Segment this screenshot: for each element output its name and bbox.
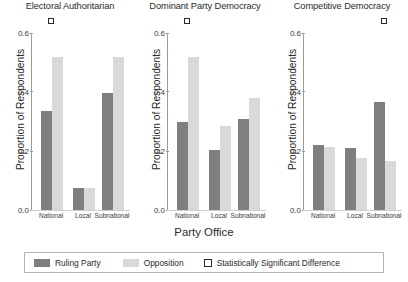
panel-title: Electoral Authoritarian <box>2 0 138 12</box>
x-tick-label: National <box>311 212 335 219</box>
x-tick-label: National <box>175 212 199 219</box>
bar-opposition <box>324 147 335 210</box>
significance-square-icon <box>204 259 212 267</box>
bar-groups <box>304 33 402 210</box>
legend-item-ruling-party: Ruling Party <box>34 258 101 268</box>
bar-opposition <box>113 57 124 210</box>
x-tick-label: Local <box>211 212 227 219</box>
y-tick-label: 0.0 <box>154 206 165 215</box>
bar-opposition <box>385 161 396 210</box>
y-tick-label: 0.0 <box>290 206 301 215</box>
chart-figure: Electoral Authoritarian Proportion of Re… <box>0 0 408 282</box>
x-tick-label: National <box>39 212 63 219</box>
legend-label: Ruling Party <box>55 258 101 268</box>
significance-marker <box>184 18 190 24</box>
bar-ruling-party <box>238 119 249 210</box>
legend-label: Opposition <box>144 258 184 268</box>
y-axis-title: Proportion of Respondents <box>287 30 298 190</box>
bar-ruling-party <box>73 188 84 210</box>
bar-opposition <box>84 188 95 210</box>
bar-opposition <box>188 57 199 210</box>
x-tick-label: Subnational <box>367 212 402 219</box>
bar-ruling-party <box>41 111 52 210</box>
legend-item-significance: Statistically Significant Difference <box>204 258 340 268</box>
bar-groups <box>32 33 130 210</box>
panel-title: Dominant Party Democracy <box>137 0 273 12</box>
chart-legend: Ruling Party Opposition Statistically Si… <box>24 252 384 273</box>
y-tick-label: 0.2 <box>18 147 29 156</box>
x-tick-label: Subnational <box>231 212 266 219</box>
ruling-party-swatch <box>34 259 50 267</box>
opposition-swatch <box>123 259 139 267</box>
panel-dominant-party-democracy: Dominant Party Democracy Proportion of R… <box>136 0 272 228</box>
x-tick-label: Subnational <box>95 212 130 219</box>
legend-label: Statistically Significant Difference <box>217 258 340 268</box>
bar-ruling-party <box>209 150 220 210</box>
panel-competitive-democracy: Competitive Democracy Proportion of Resp… <box>272 0 408 228</box>
bar-ruling-party <box>345 148 356 210</box>
significance-marker <box>381 18 387 24</box>
y-tick-label: 0.4 <box>18 87 29 96</box>
y-tick-label: 0.6 <box>154 29 165 38</box>
bar-ruling-party <box>102 93 113 210</box>
plot-area: 0.0 0.2 0.4 0.6 <box>31 33 129 210</box>
bar-ruling-party <box>177 122 188 211</box>
y-tick-label: 0.4 <box>290 87 301 96</box>
bar-ruling-party <box>374 102 385 210</box>
bar-ruling-party <box>313 145 324 210</box>
y-tick-mark <box>166 210 169 211</box>
y-tick-mark <box>30 210 33 211</box>
x-tick-labels: National Local Subnational <box>303 212 401 224</box>
bar-opposition <box>220 126 231 210</box>
y-axis-title: Proportion of Respondents <box>15 30 26 190</box>
bar-opposition <box>249 98 260 210</box>
bar-groups <box>168 33 266 210</box>
y-axis-title: Proportion of Respondents <box>151 30 162 190</box>
plot-area: 0.0 0.2 0.4 0.6 <box>167 33 265 210</box>
y-tick-mark <box>302 210 305 211</box>
y-tick-label: 0.2 <box>154 147 165 156</box>
significance-marker <box>48 18 54 24</box>
bar-opposition <box>356 158 367 210</box>
bar-opposition <box>52 57 63 210</box>
panel-row: Electoral Authoritarian Proportion of Re… <box>0 0 408 228</box>
y-tick-label: 0.4 <box>154 87 165 96</box>
x-axis-title: Party Office <box>0 226 408 238</box>
x-tick-labels: National Local Subnational <box>167 212 265 224</box>
panel-title: Competitive Democracy <box>274 0 408 12</box>
y-tick-label: 0.2 <box>290 147 301 156</box>
x-tick-labels: National Local Subnational <box>31 212 129 224</box>
y-tick-label: 0.6 <box>18 29 29 38</box>
plot-area: 0.0 0.2 0.4 0.6 <box>303 33 401 210</box>
panel-electoral-authoritarian: Electoral Authoritarian Proportion of Re… <box>0 0 136 228</box>
y-tick-label: 0.6 <box>290 29 301 38</box>
legend-item-opposition: Opposition <box>123 258 184 268</box>
x-tick-label: Local <box>347 212 363 219</box>
x-tick-label: Local <box>75 212 91 219</box>
y-tick-label: 0.0 <box>18 206 29 215</box>
